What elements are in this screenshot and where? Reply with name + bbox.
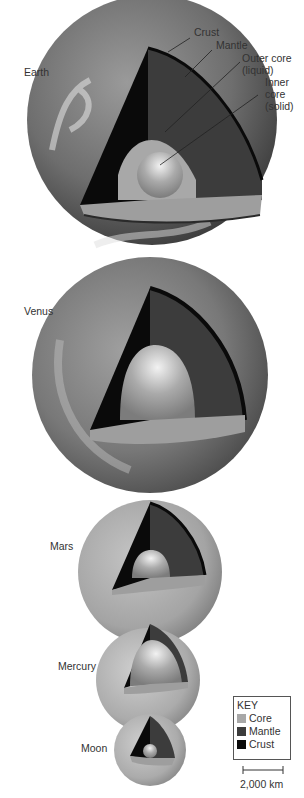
venus-planet bbox=[32, 257, 268, 493]
label-mars: Mars bbox=[50, 540, 73, 552]
planet-interiors-diagram bbox=[0, 0, 304, 798]
legend-item-core: Core bbox=[237, 712, 287, 725]
callout-outer-core-2: (liquid) bbox=[242, 64, 274, 76]
scale-bar bbox=[243, 766, 283, 774]
callout-inner-core-1: Inner bbox=[265, 76, 289, 88]
mantle-swatch bbox=[237, 727, 246, 736]
label-moon: Moon bbox=[81, 742, 107, 754]
crust-swatch bbox=[237, 740, 246, 749]
label-venus: Venus bbox=[24, 305, 53, 317]
scale-bar-label: 2,000 km bbox=[240, 778, 283, 790]
callout-crust: Crust bbox=[194, 26, 219, 38]
earth-planet bbox=[27, 0, 277, 245]
label-earth: Earth bbox=[24, 66, 49, 78]
legend-item-crust: Crust bbox=[237, 738, 287, 751]
callout-mantle: Mantle bbox=[216, 39, 248, 51]
label-mercury: Mercury bbox=[58, 660, 96, 672]
core-swatch bbox=[237, 714, 246, 723]
legend-title: KEY bbox=[237, 699, 287, 712]
legend-key: KEY Core Mantle Crust bbox=[233, 696, 291, 760]
moon-planet bbox=[114, 714, 186, 786]
mars-planet bbox=[78, 500, 222, 644]
callout-inner-core-2: core bbox=[265, 88, 285, 100]
callout-inner-core-3: (solid) bbox=[265, 100, 294, 112]
callout-outer-core-1: Outer core bbox=[242, 52, 292, 64]
legend-item-mantle: Mantle bbox=[237, 725, 287, 738]
